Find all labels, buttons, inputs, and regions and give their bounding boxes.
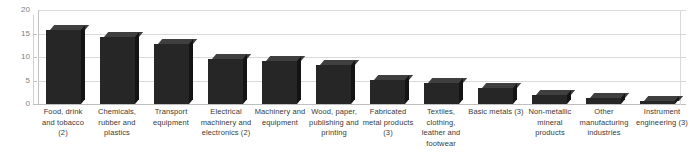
bar-non-metallic-mineral-products[interactable] [532, 95, 567, 104]
label-line: (3) [356, 128, 420, 139]
y-tick-mark-15 [34, 34, 37, 35]
bar-face [640, 101, 675, 104]
bar-chart: 20 15 10 5 0 [0, 0, 692, 162]
label-line: products [520, 128, 580, 139]
bar-face [316, 65, 351, 104]
y-tick-label-20: 20 [6, 6, 30, 14]
label-line: manufacturing [572, 118, 636, 129]
bar-face [586, 98, 621, 104]
bar-series [38, 10, 686, 104]
y-tick-mark-0 [34, 104, 37, 105]
category-label-fabricated-metal-products: Fabricated metal products (3) [356, 107, 420, 139]
y-tick-label-15: 15 [6, 30, 30, 38]
bar-side-face [459, 78, 463, 104]
bar-side-face [405, 75, 409, 104]
bar-wood-paper-publishing-and-printing[interactable] [316, 65, 351, 104]
category-label-chemicals-rubber-and-plastics: Chemicals, rubber and plastics [88, 107, 146, 139]
bar-face [370, 80, 405, 104]
category-label-other-manufacturing-industries: Other manufacturing industries [572, 107, 636, 139]
label-line: rubber and [88, 118, 146, 129]
bar-side-face [513, 83, 517, 104]
bar-face [478, 88, 513, 104]
label-line: and tobacco [34, 118, 92, 129]
label-line: Other [572, 107, 636, 118]
category-label-non-metallic-mineral-products: Non-metallic mineral products [520, 107, 580, 139]
y-tick-mark-5 [34, 81, 37, 82]
label-line: clothing, [412, 118, 470, 129]
bar-side-face [567, 90, 571, 104]
label-line: Chemicals, [88, 107, 146, 118]
bar-side-face [243, 54, 247, 104]
bar-instrument-engineering[interactable] [640, 101, 675, 104]
label-line: equipment [142, 118, 200, 129]
label-line: Non-metallic [520, 107, 580, 118]
bar-face [100, 37, 135, 104]
bar-chemicals-rubber-and-plastics[interactable] [100, 37, 135, 104]
label-line: Fabricated [356, 107, 420, 118]
bar-face [424, 83, 459, 104]
bar-other-manufacturing-industries[interactable] [586, 98, 621, 104]
label-line: mineral [520, 118, 580, 129]
plot-floor-front-edge [33, 104, 681, 105]
label-line: plastics [88, 128, 146, 139]
bar-textiles-clothing-leather-and-footwear[interactable] [424, 83, 459, 104]
bar-side-face [81, 25, 85, 104]
bar-basic-metals[interactable] [478, 88, 513, 104]
bar-fabricated-metal-products[interactable] [370, 80, 405, 104]
bar-face [154, 44, 189, 104]
bar-face [208, 59, 243, 104]
category-label-instrument-engineering: Instrument engineering (3) [630, 107, 692, 128]
bar-side-face [135, 32, 139, 104]
y-axis-front-edge [33, 15, 34, 104]
bar-face [532, 95, 567, 104]
bar-side-face [297, 56, 301, 104]
bar-side-face [189, 39, 193, 104]
label-line: leather and [412, 128, 470, 139]
category-label-transport-equipment: Transport equipment [142, 107, 200, 128]
bar-side-face [351, 60, 355, 104]
y-tick-label-10: 10 [6, 53, 30, 61]
label-line: (2) [34, 128, 92, 139]
label-line: Instrument [630, 107, 692, 118]
label-line: metal products [356, 118, 420, 129]
bar-machinery-and-equipment[interactable] [262, 61, 297, 104]
label-line: engineering (3) [630, 118, 692, 129]
y-tick-label-0: 0 [6, 100, 30, 108]
label-line: Food, drink [34, 107, 92, 118]
y-tick-mark-10 [34, 57, 37, 58]
y-tick-label-5: 5 [6, 77, 30, 85]
label-line: Transport [142, 107, 200, 118]
bar-food-drink-and-tobacco[interactable] [46, 30, 81, 104]
label-line: electronics (2) [194, 128, 258, 139]
category-axis-labels: Food, drink and tobacco (2) Chemicals, r… [38, 107, 686, 162]
bar-transport-equipment[interactable] [154, 44, 189, 104]
bar-electrical-machinery-and-electronics[interactable] [208, 59, 243, 104]
category-label-food-drink-and-tobacco: Food, drink and tobacco (2) [34, 107, 92, 139]
label-line: industries [572, 128, 636, 139]
label-line: footwear [412, 139, 470, 150]
bar-face [46, 30, 81, 104]
bar-face [262, 61, 297, 104]
